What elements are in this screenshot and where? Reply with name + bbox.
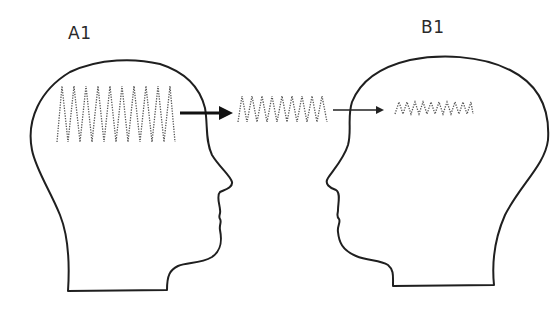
received-wave — [395, 102, 473, 114]
source-wave — [57, 86, 175, 142]
head-b-outline — [327, 57, 549, 286]
transit-wave — [238, 96, 327, 122]
diagram-canvas — [0, 0, 550, 309]
arrow-1-head-icon — [219, 106, 233, 120]
arrow-2-head-icon — [376, 106, 384, 114]
